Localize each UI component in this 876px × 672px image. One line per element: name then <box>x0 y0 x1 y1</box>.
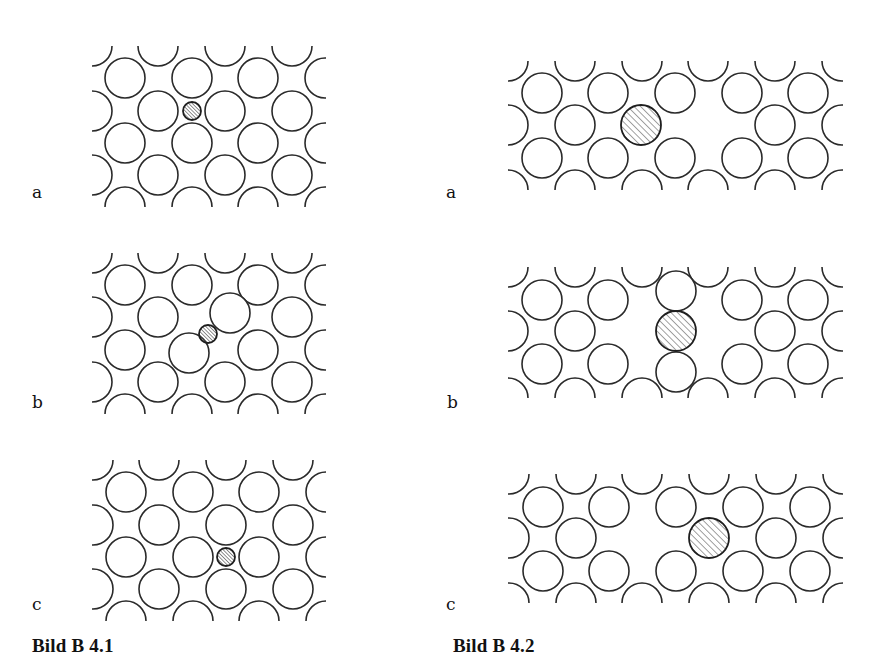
lattice-panel-b41-c <box>73 440 346 641</box>
lattice-atom <box>105 187 145 227</box>
lattice-atom <box>106 537 146 577</box>
lattice-panel-b41-b <box>72 233 345 434</box>
lattice-atom <box>723 551 763 591</box>
hatched-defect-atom <box>621 105 661 145</box>
lattice-atom <box>273 505 313 545</box>
lattice-atom <box>138 362 178 402</box>
lattice-atom <box>622 583 662 623</box>
lattice-atom <box>555 170 595 210</box>
lattice-atom <box>722 280 762 320</box>
lattice-atom <box>172 123 212 163</box>
lattice-atom <box>523 551 563 591</box>
lattice-atom <box>689 583 729 623</box>
lattice-atom <box>139 440 179 480</box>
lattice-atom <box>272 155 312 195</box>
lattice-panel-b42-c <box>489 454 863 623</box>
lattice-atom <box>723 487 763 527</box>
lattice-atom <box>755 247 795 287</box>
lattice-atom <box>822 378 862 418</box>
lattice-atom <box>722 344 762 384</box>
lattice-atom <box>205 362 245 402</box>
lattice-atom <box>305 330 345 370</box>
lattice-atom <box>755 311 795 351</box>
lattice-atom <box>105 123 145 163</box>
panel-label-b42-a: a <box>446 184 456 201</box>
lattice-atom <box>106 472 146 512</box>
lattice-atom <box>205 26 245 66</box>
lattice-atom <box>790 551 830 591</box>
lattice-atom <box>206 505 246 545</box>
lattice-atom <box>172 58 212 98</box>
lattice-atom <box>622 378 662 418</box>
lattice-atom <box>172 394 212 434</box>
lattice-atom <box>205 155 245 195</box>
panel-label-b41-c: c <box>32 596 42 613</box>
lattice-atom <box>239 537 279 577</box>
lattice-atom <box>556 518 596 558</box>
lattice-atom <box>238 330 278 370</box>
crystal-lattice-figure <box>0 0 876 672</box>
lattice-panel-b42-b <box>488 247 862 418</box>
lattice-atom <box>755 378 795 418</box>
panel-label-b41-b: b <box>32 394 43 411</box>
lattice-atom <box>488 41 528 81</box>
figure-caption-b42: Bild B 4.2 <box>453 636 535 655</box>
figure-caption-b41: Bild B 4.1 <box>32 636 114 655</box>
lattice-atom <box>589 487 629 527</box>
panel-label-b41-a: a <box>32 184 42 201</box>
lattice-atom <box>622 41 662 81</box>
lattice-atom <box>205 91 245 131</box>
lattice-atom <box>822 247 862 287</box>
lattice-atom <box>555 41 595 81</box>
lattice-atom <box>822 105 862 145</box>
lattice-atom <box>788 138 828 178</box>
lattice-atom <box>788 280 828 320</box>
lattice-atom <box>105 394 145 434</box>
lattice-atom <box>273 440 313 480</box>
lattice-atom <box>555 105 595 145</box>
lattice-panel-b42-a <box>488 41 862 210</box>
lattice-atom <box>73 440 113 480</box>
lattice-atom <box>105 58 145 98</box>
lattice-atom <box>206 440 246 480</box>
lattice-atom <box>755 105 795 145</box>
lattice-atom <box>722 73 762 113</box>
lattice-atom <box>306 601 346 641</box>
lattice-atom <box>823 454 863 494</box>
lattice-atom <box>588 344 628 384</box>
lattice-atom <box>656 487 696 527</box>
panel-label-b42-b: b <box>447 394 458 411</box>
lattice-atom <box>305 187 345 227</box>
lattice-atom <box>522 344 562 384</box>
lattice-atom <box>239 601 279 641</box>
lattice-atom <box>622 170 662 210</box>
lattice-atom <box>138 297 178 337</box>
panel-label-b42-c: c <box>446 596 456 613</box>
lattice-atom <box>305 394 345 434</box>
lattice-atom <box>205 233 245 273</box>
lattice-atom <box>823 518 863 558</box>
lattice-atom <box>756 583 796 623</box>
lattice-atom <box>488 378 528 418</box>
lattice-atom <box>788 73 828 113</box>
hatched-defect-atom <box>183 102 201 120</box>
lattice-atom <box>238 187 278 227</box>
lattice-atom <box>105 330 145 370</box>
lattice-atom <box>306 537 346 577</box>
lattice-atom <box>72 91 112 131</box>
lattice-panel-b41-a <box>72 26 345 227</box>
lattice-atom <box>689 454 729 494</box>
lattice-atom <box>555 247 595 287</box>
lattice-atom <box>822 170 862 210</box>
lattice-atom <box>622 247 662 287</box>
lattice-atom <box>173 537 213 577</box>
lattice-atom <box>555 378 595 418</box>
lattice-atom <box>173 601 213 641</box>
lattice-atom <box>172 187 212 227</box>
displaced-atom <box>656 352 696 392</box>
lattice-atom <box>239 472 279 512</box>
hatched-defect-atom <box>199 325 217 343</box>
lattice-atom <box>588 138 628 178</box>
lattice-atom <box>272 26 312 66</box>
lattice-atom <box>72 362 112 402</box>
